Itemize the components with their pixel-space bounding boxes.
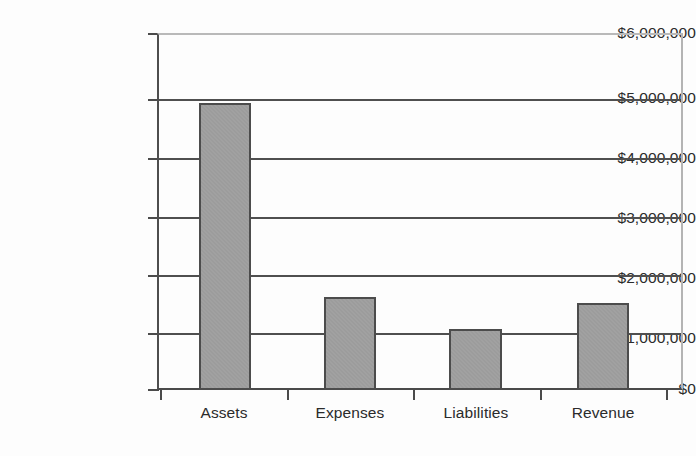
- x-axis-tick-mark: [287, 390, 289, 400]
- bar-liabilities: [449, 329, 502, 390]
- x-axis-label-liabilities: Liabilities: [417, 404, 535, 422]
- x-axis-label-expenses: Expenses: [291, 404, 409, 422]
- x-axis-tick-mark: [160, 390, 162, 400]
- bar-assets: [199, 103, 251, 390]
- x-axis-tick-mark: [666, 390, 668, 400]
- x-axis-tick-mark: [413, 390, 415, 400]
- x-axis-label-revenue: Revenue: [544, 404, 662, 422]
- x-axis-label-assets: Assets: [165, 404, 283, 422]
- bar-chart: $6,000,000 $5,000,000 $4,000,000 $3,000,…: [0, 0, 696, 456]
- bar-revenue: [577, 303, 629, 390]
- x-axis-tick-mark: [540, 390, 542, 400]
- bar-expenses: [324, 297, 376, 390]
